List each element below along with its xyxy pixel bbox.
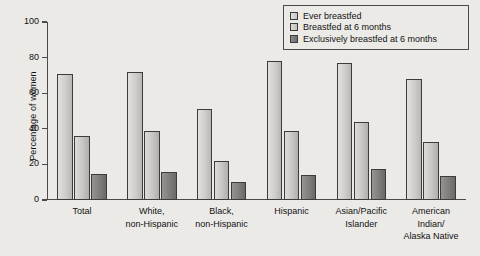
legend-item: Exclusively breastfed at 6 months <box>290 33 463 45</box>
bar-chart: Percentage of women 020406080100 TotalWh… <box>0 0 480 256</box>
bar <box>423 142 439 200</box>
legend-swatch-ever-breastfed <box>290 12 298 20</box>
legend-item: Ever breastfed <box>290 10 463 22</box>
legend-label: Exclusively breastfed at 6 months <box>303 34 437 44</box>
legend-item: Breastfed at 6 months <box>290 22 463 34</box>
legend: Ever breastfed Breastfed at 6 months Exc… <box>283 5 469 50</box>
category-label: American Indian/ Alaska Native <box>390 205 472 243</box>
legend-swatch-breastfed-6-months <box>290 23 298 31</box>
legend-label: Ever breastfed <box>303 11 362 21</box>
legend-label: Breastfed at 6 months <box>303 22 391 32</box>
bar <box>406 79 422 200</box>
bar <box>440 176 456 200</box>
legend-swatch-exclusively-breastfed-6-months <box>290 35 298 43</box>
